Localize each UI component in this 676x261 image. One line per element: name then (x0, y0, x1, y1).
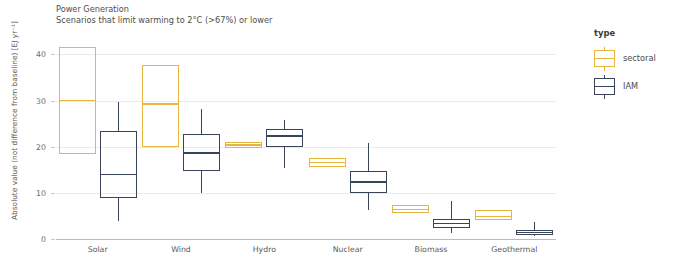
x-axis-label-geothermal: Geothermal (491, 245, 537, 254)
box-iam-hydro-median (266, 135, 303, 137)
box-sectoral-biomass-median (392, 209, 429, 211)
chart-title-line2: Scenarios that limit warming to 2°C (>67… (56, 15, 272, 26)
chart-title: Power Generation Scenarios that limit wa… (56, 4, 272, 26)
y-tick-label-10: 10 (6, 188, 46, 197)
box-iam-geothermal-lower-whisker (534, 235, 535, 236)
box-iam-wind-upper-whisker (201, 109, 202, 133)
plot-area: 010203040SolarWindHydroNuclearBiomassGeo… (56, 36, 556, 239)
y-tick-label-0: 0 (6, 235, 46, 244)
y-tick-label-30: 30 (6, 96, 46, 105)
box-sectoral-nuclear-median (309, 162, 346, 164)
box-iam-hydro[interactable] (266, 129, 303, 147)
box-iam-solar-lower-whisker (118, 198, 119, 222)
y-tick-mark-0 (51, 239, 55, 240)
box-iam-biomass-upper-whisker (451, 201, 452, 219)
x-axis-label-nuclear: Nuclear (333, 245, 363, 254)
legend-label: IAM (623, 81, 638, 91)
box-iam-solar-upper-whisker (118, 102, 119, 131)
x-axis-label-solar: Solar (88, 245, 108, 254)
legend-items: sectoralIAM (594, 47, 615, 103)
legend-key-lower-whisker (604, 95, 605, 99)
box-sectoral-geothermal-median (475, 216, 512, 218)
legend-key-lower-whisker (604, 67, 605, 71)
chart-title-line1: Power Generation (56, 4, 272, 15)
legend-item-iam[interactable]: IAM (594, 75, 615, 103)
legend-key-median (594, 58, 615, 59)
box-iam-nuclear-upper-whisker (368, 143, 369, 171)
box-iam-geothermal-upper-whisker (534, 222, 535, 230)
box-iam-hydro-lower-whisker (284, 147, 285, 169)
box-iam-nuclear-lower-whisker (368, 193, 369, 211)
box-iam-solar-median (100, 174, 137, 176)
y-tick-mark-40 (51, 54, 55, 55)
box-sectoral-wind-median (142, 103, 179, 105)
box-iam-hydro-upper-whisker (284, 120, 285, 129)
gridline-0 (56, 239, 556, 240)
gridline-40 (56, 54, 556, 55)
legend: type sectoralIAM (594, 28, 615, 103)
y-tick-mark-30 (51, 101, 55, 102)
box-iam-geothermal-median (516, 232, 553, 234)
box-sectoral-hydro-median (225, 144, 262, 146)
legend-label: sectoral (623, 53, 656, 63)
box-iam-nuclear-median (350, 181, 387, 183)
box-iam-biomass-lower-whisker (451, 228, 452, 233)
legend-item-sectoral[interactable]: sectoral (594, 47, 615, 75)
y-tick-mark-20 (51, 147, 55, 148)
box-iam-solar[interactable] (100, 131, 137, 198)
y-tick-label-40: 40 (6, 50, 46, 59)
box-iam-wind-lower-whisker (201, 171, 202, 193)
gridline-30 (56, 101, 556, 102)
x-axis-label-hydro: Hydro (253, 245, 276, 254)
legend-key-median (594, 86, 615, 87)
y-tick-label-20: 20 (6, 142, 46, 151)
box-sectoral-solar-median (59, 100, 96, 102)
box-iam-biomass-median (433, 223, 470, 225)
boxplot-figure: Power Generation Scenarios that limit wa… (0, 0, 676, 261)
x-axis-label-biomass: Biomass (415, 245, 448, 254)
legend-title: type (594, 28, 615, 38)
box-sectoral-wind[interactable] (142, 65, 179, 147)
box-iam-wind-median (183, 152, 220, 154)
y-tick-mark-10 (51, 193, 55, 194)
x-axis-label-wind: Wind (171, 245, 191, 254)
